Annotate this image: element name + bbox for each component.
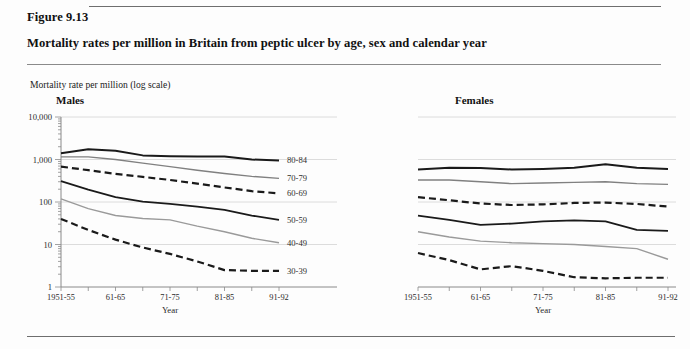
series-line-70-79 xyxy=(418,180,668,184)
x-tick-label: 71-75 xyxy=(160,293,180,302)
x-axis-title: Year xyxy=(535,305,551,315)
series-label-80-84: 80-84 xyxy=(287,155,307,165)
footer-rule xyxy=(27,336,675,337)
x-tick-label: 91-92 xyxy=(658,293,678,302)
series-line-40-49 xyxy=(418,232,668,260)
series-label-30-39: 30-39 xyxy=(287,266,307,276)
series-line-80-84 xyxy=(61,149,279,160)
series-line-60-69 xyxy=(61,167,279,194)
series-label-60-69: 60-69 xyxy=(287,188,307,198)
series-label-50-59: 50-59 xyxy=(287,215,307,225)
figure-number: Figure 9.13 xyxy=(27,10,88,25)
x-tick-label: 1951-55 xyxy=(404,293,432,302)
chart-svg-males xyxy=(27,113,339,309)
series-line-50-59 xyxy=(61,181,279,220)
series-line-30-39 xyxy=(418,253,668,278)
chart-svg-females xyxy=(400,113,678,309)
figure-page: Figure 9.13 Mortality rates per million … xyxy=(0,0,690,349)
chart-panel-males: 10,0001,0001001011951-5561-6571-7581-859… xyxy=(27,113,339,309)
x-tick-label: 71-75 xyxy=(533,293,553,302)
x-tick-label: 91-92 xyxy=(269,293,289,302)
chart-panel-females: 1951-5561-6571-7581-8591-92Year xyxy=(400,113,678,309)
series-line-70-79 xyxy=(61,157,279,178)
figure-title: Mortality rates per million in Britain f… xyxy=(27,36,487,51)
y-tick-label: 1 xyxy=(27,282,52,292)
series-line-40-49 xyxy=(61,199,279,243)
y-axis-caption: Mortality rate per million (log scale) xyxy=(30,79,170,90)
y-tick-label: 1,000 xyxy=(27,155,52,165)
y-tick-label: 100 xyxy=(27,197,52,207)
x-tick-label: 1951-55 xyxy=(47,293,75,302)
x-tick-label: 81-85 xyxy=(596,293,616,302)
series-label-40-49: 40-49 xyxy=(287,238,307,248)
y-tick-label: 10,000 xyxy=(27,112,52,122)
x-tick-label: 81-85 xyxy=(215,293,235,302)
series-line-50-59 xyxy=(418,216,668,231)
series-line-80-84 xyxy=(418,164,668,169)
x-tick-label: 61-65 xyxy=(106,293,126,302)
header-rule-bottom xyxy=(27,64,661,65)
x-axis-title: Year xyxy=(162,305,178,315)
header-rule-top xyxy=(89,6,661,7)
y-tick-label: 10 xyxy=(27,240,52,250)
panel-heading-males: Males xyxy=(56,94,84,106)
x-tick-label: 61-65 xyxy=(471,293,491,302)
series-label-70-79: 70-79 xyxy=(287,173,307,183)
panel-heading-females: Females xyxy=(455,94,493,106)
